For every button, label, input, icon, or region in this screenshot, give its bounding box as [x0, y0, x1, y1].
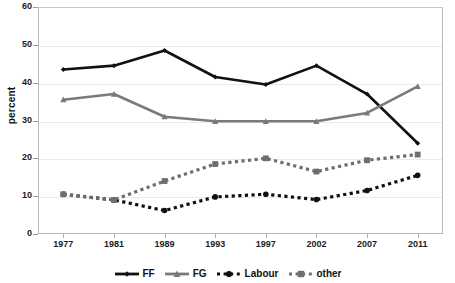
x-axis-tick-mark	[367, 234, 368, 238]
y-axis-tick-label: 50	[2, 39, 32, 49]
x-axis-tick-mark	[316, 234, 317, 238]
legend-label: Labour	[245, 269, 279, 279]
y-axis-tick-label: 0	[2, 228, 32, 238]
legend-swatch-triangle-icon	[164, 268, 190, 280]
legend-label: other	[317, 269, 342, 279]
legend-label: FG	[193, 269, 207, 279]
x-axis-tick-mark	[266, 234, 267, 238]
legend-swatch-circle-icon	[216, 268, 242, 280]
y-axis-tick-mark	[33, 45, 38, 46]
x-axis-tick-mark	[114, 234, 115, 238]
y-axis-tick-label: 60	[2, 1, 32, 11]
legend-item-labour[interactable]: Labour	[216, 268, 279, 280]
legend-item-other[interactable]: other	[288, 268, 342, 280]
plot-area	[38, 7, 443, 234]
legend-swatch-square-icon	[288, 268, 314, 280]
line-chart: 6050403020100 percent 197719811989199319…	[0, 0, 455, 283]
y-axis-tick-mark	[33, 158, 38, 159]
y-axis-tick-mark	[33, 196, 38, 197]
y-axis-label: percent	[6, 71, 17, 141]
y-axis-tick-label: 10	[2, 190, 32, 200]
y-axis-tick-mark	[33, 83, 38, 84]
y-axis-tick-label: 20	[2, 152, 32, 162]
y-axis-tick-mark	[33, 121, 38, 122]
legend-swatch-diamond-icon	[114, 268, 140, 280]
chart-title-cropped	[0, 0, 455, 6]
gridline	[39, 197, 442, 198]
legend-item-ff[interactable]: FF	[114, 268, 155, 280]
legend-label: FF	[143, 269, 155, 279]
y-axis-tick-mark	[33, 7, 38, 8]
chart-legend: FFFGLabourother	[0, 264, 455, 283]
y-axis-tick-mark	[33, 234, 38, 235]
x-axis-tick-mark	[63, 234, 64, 238]
x-axis-tick-label: 2011	[388, 239, 448, 249]
x-axis-tick-mark	[215, 234, 216, 238]
legend-item-fg[interactable]: FG	[164, 268, 207, 280]
gridline	[39, 159, 442, 160]
x-axis-tick-mark	[165, 234, 166, 238]
gridline	[39, 46, 442, 47]
x-axis-tick-mark	[418, 234, 419, 238]
gridline	[39, 122, 442, 123]
gridline	[39, 84, 442, 85]
